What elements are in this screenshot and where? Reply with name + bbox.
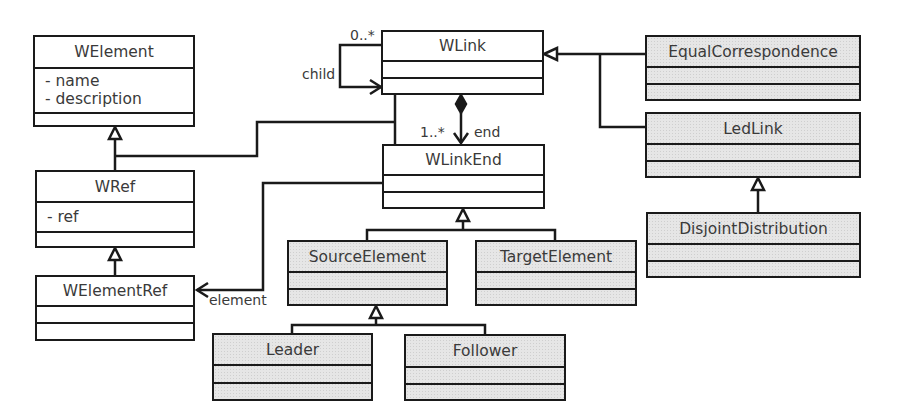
class-name: EqualCorrespondence [647, 37, 859, 68]
generalization-sourceelement-subclasses [292, 306, 485, 334]
generalization-wref-welement [109, 122, 395, 170]
end-role-label: end [474, 124, 500, 140]
class-name: WElement [35, 37, 193, 69]
attributes-section [648, 245, 859, 262]
class-welement[interactable]: WElement - name - description [33, 35, 195, 127]
class-name: Leader [214, 335, 371, 366]
generalization-welementref-wref [109, 248, 121, 275]
attributes-section [406, 368, 564, 385]
class-name: TargetElement [477, 242, 635, 273]
attributes-section [214, 366, 371, 384]
element-role-label: element [209, 292, 267, 308]
class-name: WLink [383, 32, 542, 62]
class-name: WLinkEnd [384, 146, 543, 176]
child-multiplicity-label: 0..* [350, 27, 375, 43]
class-welementref[interactable]: WElementRef [35, 275, 195, 341]
attributes-section [477, 273, 635, 290]
child-role-label: child [302, 66, 335, 82]
attribute-name: - name [45, 72, 193, 90]
class-leader[interactable]: Leader [212, 333, 373, 401]
class-name: WElementRef [37, 277, 193, 307]
class-name: WRef [37, 172, 193, 203]
class-wref[interactable]: WRef - ref [35, 170, 195, 248]
class-ledlink[interactable]: LedLink [645, 112, 861, 178]
class-wlinkend[interactable]: WLinkEnd [382, 144, 545, 209]
attributes-section [383, 62, 542, 79]
generalization-wlink-subclasses [544, 48, 645, 127]
class-name: DisjointDistribution [648, 214, 859, 245]
class-name: Follower [406, 336, 564, 368]
attribute-ref: - ref [47, 208, 193, 226]
class-targetelement[interactable]: TargetElement [475, 240, 637, 306]
class-follower[interactable]: Follower [404, 334, 566, 401]
association-child [340, 45, 381, 94]
attribute-description: - description [45, 90, 193, 108]
attributes-section [384, 176, 543, 193]
attributes-section: - name - description [35, 69, 193, 114]
attributes-section [647, 145, 859, 162]
attributes-section: - ref [37, 203, 193, 233]
class-name: SourceElement [289, 242, 446, 273]
class-wlink[interactable]: WLink [381, 30, 544, 95]
end-multiplicity-label: 1..* [420, 124, 445, 140]
attributes-section [289, 273, 446, 290]
generalization-disjoint-ledlink [752, 178, 764, 212]
attributes-section [37, 307, 193, 324]
generalization-wlinkend-subclasses [367, 209, 555, 240]
class-name: LedLink [647, 114, 859, 145]
class-disjointdistribution[interactable]: DisjointDistribution [646, 212, 861, 278]
attributes-section [647, 68, 859, 85]
composition-end [454, 95, 468, 143]
class-equalcorrespondence[interactable]: EqualCorrespondence [645, 35, 861, 101]
class-sourceelement[interactable]: SourceElement [287, 240, 448, 306]
